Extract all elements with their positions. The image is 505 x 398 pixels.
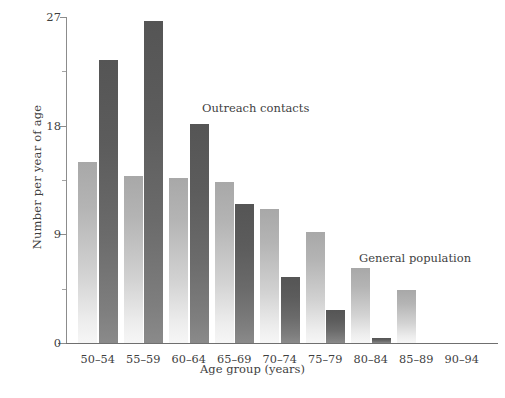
bar-outreach-contacts	[372, 338, 391, 343]
y-tick-label: 27	[46, 10, 61, 24]
bar-group-55-59	[124, 17, 164, 343]
bar-outreach-contacts	[281, 277, 300, 343]
bar-general-population	[169, 178, 188, 343]
bar-outreach-contacts	[235, 204, 254, 343]
bar-general-population	[397, 290, 416, 343]
y-tick-label: 9	[54, 227, 61, 241]
annotation-general-population: General population	[359, 251, 471, 265]
bar-group-75-79	[306, 17, 346, 343]
y-tick-label: 18	[46, 119, 61, 133]
bar-group-90-94	[442, 17, 482, 343]
bar-group-70-74	[260, 17, 300, 343]
y-minor-tick-mark	[62, 71, 66, 72]
bar-general-population	[78, 162, 97, 343]
x-axis-line	[58, 343, 498, 344]
bar-group-50-54	[78, 17, 118, 343]
y-tick-label: 0	[54, 336, 61, 350]
bar-group-60-64	[169, 17, 209, 343]
bar-group-80-84	[351, 17, 391, 343]
y-minor-tick-mark	[62, 180, 66, 181]
bar-general-population	[351, 268, 370, 343]
y-axis-title: Number per year of age	[30, 77, 44, 277]
bar-general-population	[124, 176, 143, 343]
bar-general-population	[260, 209, 279, 343]
plot-area: 091827 50–5455–5960–6465–6970–7475–7980–…	[66, 17, 490, 343]
bar-group-65-69	[215, 17, 255, 343]
bar-outreach-contacts	[326, 310, 345, 343]
x-axis-title: Age group (years)	[0, 362, 505, 376]
bar-outreach-contacts	[99, 60, 118, 343]
bar-general-population	[306, 232, 325, 343]
bar-outreach-contacts	[144, 21, 163, 343]
bar-chart-figure: Number per year of age 091827 50–5455–59…	[0, 0, 505, 398]
bar-outreach-contacts	[190, 124, 209, 343]
annotation-outreach-contacts: Outreach contacts	[202, 101, 309, 115]
bar-group-85-89	[397, 17, 437, 343]
bar-general-population	[215, 182, 234, 343]
y-axis-line	[66, 17, 67, 343]
y-minor-tick-mark	[62, 289, 66, 290]
